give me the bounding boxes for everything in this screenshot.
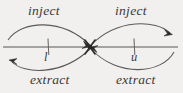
inject-left-label: inject	[28, 4, 60, 18]
center-node	[88, 45, 93, 50]
inject-extract-diagram: inject inject extract extract l u	[0, 0, 183, 93]
inject-right-arc	[91, 24, 170, 45]
inject-right-label: inject	[115, 4, 147, 18]
lower-bound-label: l	[44, 51, 48, 64]
extract-left-label: extract	[30, 73, 70, 87]
extract-right-label: extract	[116, 73, 156, 87]
tick-l	[48, 39, 49, 56]
inject-left-arc	[8, 25, 90, 45]
extract-left-arc	[12, 49, 90, 70]
inject-right-arrowhead	[164, 30, 173, 37]
upper-bound-label: u	[131, 51, 138, 64]
